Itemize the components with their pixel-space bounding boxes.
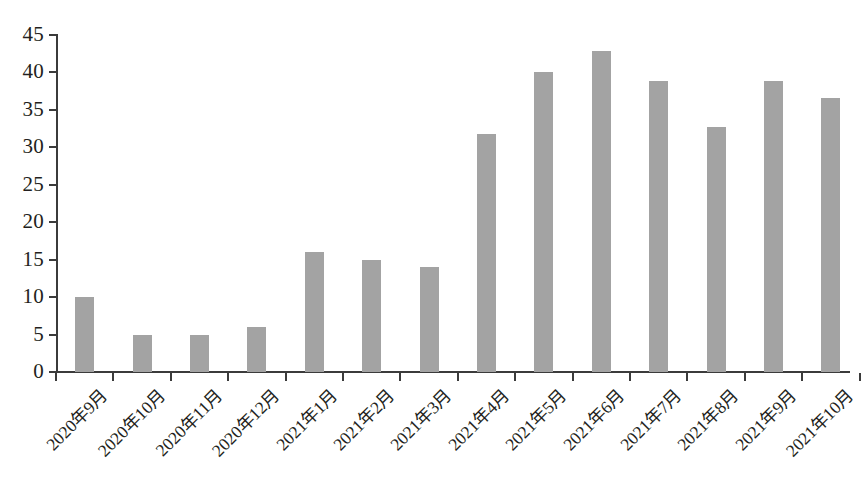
y-axis-tick-label: 40 xyxy=(0,61,44,82)
x-axis-tick xyxy=(744,373,746,381)
bar xyxy=(764,81,783,372)
y-axis-tick-label: 10 xyxy=(0,286,44,307)
x-axis-tick xyxy=(342,373,344,381)
x-axis-tick-label: 2021年7月 xyxy=(617,386,685,454)
y-axis-tick-label: 45 xyxy=(0,24,44,45)
x-axis-tick xyxy=(285,373,287,381)
x-axis-tick xyxy=(686,373,688,381)
bar xyxy=(420,267,439,372)
x-axis-tick-label: 2021年5月 xyxy=(502,386,570,454)
bar xyxy=(247,327,266,372)
x-axis-tick xyxy=(457,373,459,381)
y-axis-tick-label: 35 xyxy=(0,99,44,120)
x-axis-tick xyxy=(399,373,401,381)
x-axis-tick-label: 2021年4月 xyxy=(445,386,513,454)
x-axis-tick xyxy=(55,373,57,381)
x-axis-tick xyxy=(801,373,803,381)
x-axis-tick-label: 2021年6月 xyxy=(559,386,627,454)
y-axis-tick-label: 30 xyxy=(0,136,44,157)
x-axis-tick xyxy=(629,373,631,381)
y-axis-tick-label: 20 xyxy=(0,211,44,232)
x-axis-tick-label: 2021年2月 xyxy=(330,386,398,454)
bar xyxy=(707,127,726,372)
x-axis-tick xyxy=(112,373,114,381)
bar xyxy=(592,51,611,372)
plot-area xyxy=(57,35,850,372)
x-axis-tick-label: 2021年1月 xyxy=(272,386,340,454)
x-axis-tick xyxy=(859,373,861,381)
bar xyxy=(649,81,668,372)
x-axis-tick-label: 2021年3月 xyxy=(387,386,455,454)
bar xyxy=(133,335,152,372)
bar xyxy=(477,134,496,372)
bar xyxy=(190,335,209,372)
bar xyxy=(362,260,381,372)
bar xyxy=(305,252,324,372)
y-axis-tick-label: 0 xyxy=(0,361,44,382)
x-axis-tick xyxy=(170,373,172,381)
y-axis-tick-label: 15 xyxy=(0,249,44,270)
x-axis-tick xyxy=(572,373,574,381)
x-axis-tick xyxy=(227,373,229,381)
bar xyxy=(821,98,840,372)
bar xyxy=(75,297,94,372)
x-axis-tick xyxy=(514,373,516,381)
y-axis-tick-label: 25 xyxy=(0,174,44,195)
y-axis-tick-label: 5 xyxy=(0,324,44,345)
x-axis-tick-label: 2021年8月 xyxy=(674,386,742,454)
bar xyxy=(534,72,553,372)
